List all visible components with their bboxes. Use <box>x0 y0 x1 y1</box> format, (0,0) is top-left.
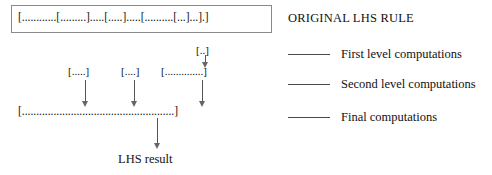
arrow-first-chunk-to-result <box>85 80 92 108</box>
diagram-canvas: [............[.........].....[.....]....… <box>0 0 492 175</box>
legend-item-label: Final computations <box>341 110 437 125</box>
arrow-third-chunk-to-result <box>202 80 209 108</box>
legend-item-final: Final computations <box>288 110 437 125</box>
bracket-first-chunk: [.....] <box>68 65 89 77</box>
legend-line-icon <box>288 54 330 55</box>
bracket-third-chunk: [..............] <box>161 65 207 77</box>
bracket-second-chunk: [....] <box>121 65 139 77</box>
bracket-bottom-rule: [.......................................… <box>18 105 178 117</box>
original-rule-text: [............[.........].....[.....]....… <box>18 11 266 23</box>
legend-item-label: Second level computations <box>341 77 476 92</box>
legend-item-label: First level computations <box>341 47 462 62</box>
legend-item-second-level: Second level computations <box>288 77 476 92</box>
legend-line-icon <box>288 84 330 85</box>
lhs-result-label: LHS result <box>118 152 173 167</box>
arrow-second-chunk-to-result <box>134 80 141 108</box>
legend-item-first-level: First level computations <box>288 47 462 62</box>
arrow-final-to-lhs-result <box>157 118 164 150</box>
legend-title: ORIGINAL LHS RULE <box>288 11 414 26</box>
legend-line-icon <box>288 117 330 118</box>
